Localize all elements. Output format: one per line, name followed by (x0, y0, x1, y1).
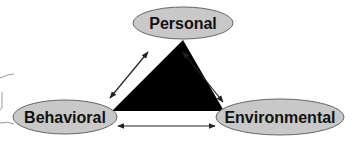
node-personal: Personal (133, 7, 233, 39)
node-environmental: Environmental (216, 99, 344, 135)
node-behavioral: Behavioral (13, 100, 117, 134)
stray-marks (0, 74, 14, 124)
node-behavioral-label: Behavioral (24, 109, 106, 126)
node-personal-label: Personal (149, 15, 217, 32)
node-environmental-label: Environmental (224, 109, 335, 126)
reciprocal-determinism-diagram: Personal Behavioral Environmental (0, 0, 358, 145)
